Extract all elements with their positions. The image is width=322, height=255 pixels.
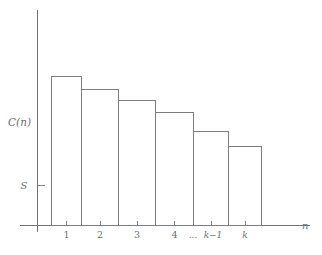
x-tick-label-6: k <box>242 230 247 240</box>
bar-chart-figure: S C(n) n 1 2 3 4 ... k−1 k <box>0 0 322 255</box>
bar-1 <box>52 77 82 226</box>
y-axis-label: C(n) <box>8 116 31 128</box>
x-tick-label-4: 4 <box>171 229 177 240</box>
chart-canvas: S C(n) n 1 2 3 4 ... k−1 k <box>0 0 322 255</box>
x-axis-label: n <box>302 220 308 231</box>
bar-3 <box>119 101 156 226</box>
x-tick-label-3: 3 <box>134 229 140 240</box>
x-tick-label-1: 1 <box>63 229 69 240</box>
bar-5 <box>194 132 229 226</box>
x-tick-label-5: k−1 <box>204 230 223 240</box>
bar-4 <box>156 113 194 226</box>
threshold-label-s: S <box>21 180 28 191</box>
bar-2 <box>82 90 119 226</box>
x-tick-ellipsis: ... <box>189 230 198 240</box>
bar-6 <box>229 147 262 226</box>
x-tick-label-2: 2 <box>97 229 103 240</box>
